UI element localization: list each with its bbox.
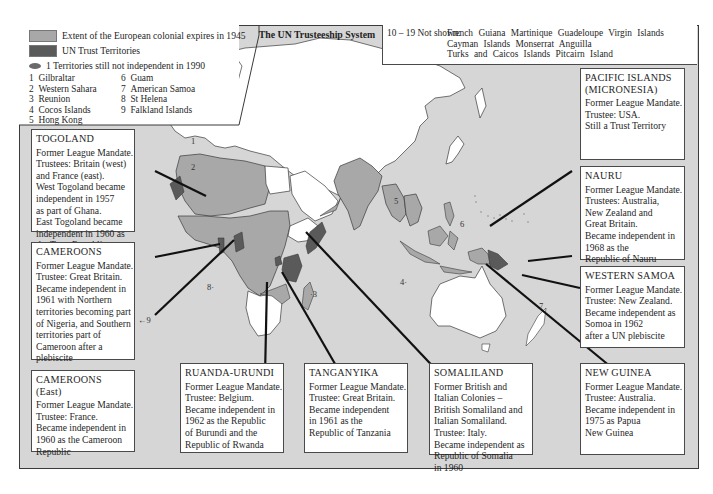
map-label-3: ·3 — [310, 289, 317, 299]
map-label-4: 4· — [400, 277, 407, 287]
callout-cameroons: CAMEROONS Former League Mandate. Trustee… — [31, 242, 135, 360]
callout-ruanda-urundi: RUANDA-URUNDI Former League Mandate. Tru… — [180, 363, 284, 453]
callout-new-guinea: NEW GUINEA Former League Mandate. Truste… — [580, 363, 685, 455]
callout-togoland: TOGOLAND Former League Mandate. Trustees… — [31, 129, 135, 232]
callout-tanganyika: TANGANYIKA Former League Mandate. Truste… — [304, 363, 408, 453]
map-label-6: 6 — [460, 219, 464, 229]
callout-western-samoa: WESTERN SAMOA Former League Mandate. Tru… — [580, 266, 685, 348]
callout-somaliland: SOMALILAND Former British and Italian Co… — [429, 363, 533, 455]
map-label-9: ←9 — [138, 315, 151, 325]
not-shown-list: French Guiana Martinique Guadeloupe Virg… — [447, 28, 664, 60]
callout-nauru: NAURU Former League Mandate. Trustees: A… — [580, 166, 685, 260]
map-label-2: 2 — [191, 162, 195, 172]
map-label-7: 7 — [539, 301, 543, 311]
map-label-1: 1 — [191, 136, 195, 146]
map-label-8: 8· — [207, 282, 214, 292]
not-shown-panel: 10 – 19 Not shown: French Guiana Martini… — [382, 25, 697, 65]
map-label-5: 5 — [394, 196, 398, 206]
map-title: The UN Trusteeship System — [252, 27, 382, 43]
legend-edge — [19, 25, 279, 135]
callout-cameroons-east: CAMEROONS (East) Former League Mandate. … — [31, 370, 135, 452]
callout-pacific-islands: PACIFIC ISLANDS (MICRONESIA) Former Leag… — [580, 68, 685, 160]
